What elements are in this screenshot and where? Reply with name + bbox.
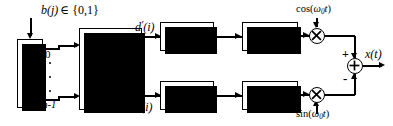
sp-output-index-top: 0 [45,48,51,60]
signal-space-mapping-block: Signal- raum Zuordnung [79,28,142,110]
mapper-label-line1: Signal- [94,50,127,63]
carrier-label-top-close: ) [328,3,332,14]
sp-output-index-bottom: m-1 [40,99,56,110]
output-signal-label: x(t) [365,47,382,62]
plus-icon [348,59,361,72]
multiply-icon [310,88,323,101]
impulse-bottom-line2: generator [166,96,208,108]
impulse-to-shaping-top-arrow [235,33,241,39]
output-signal-arg: (t) [370,47,381,61]
branch-top-arg: (i) [143,20,154,34]
mapper-label-line2: raum [99,63,123,76]
multiplier-bottom [309,87,325,103]
summer-output-arrow [379,62,385,68]
carrier-label-top: cos(ω0t) [296,3,331,16]
sp-label-p: P [26,91,33,106]
pulse-shaping-filter-block-top: gs(t) [242,22,298,51]
input-signal-alphabet: ∈ {0,1} [60,3,98,17]
ellipsis-dot [49,76,51,78]
shaping-bottom-label: gs(t) [259,88,281,103]
input-signal-symbol: b(j) [41,3,58,17]
sp-label-slash: / [28,66,32,81]
sp-output-ellipsis [48,62,52,92]
multiplier-top [309,28,325,44]
sp-label-s: S [26,41,33,56]
branch-label-bottom: d″(i) [131,99,153,115]
ellipsis-dot [49,90,51,92]
summer-minus-sign: - [343,71,347,87]
carrier-label-top-omega: ω [314,3,321,14]
shaping-top-label: gs(t) [259,29,281,44]
summer-plus-sign: + [342,47,349,62]
summing-junction [347,58,363,74]
impulse-generator-block-bottom: Impuls- generator [160,81,214,110]
carrier-label-bottom-close: ) [326,108,330,119]
serial-to-parallel-block: S / P [17,39,43,108]
branch-label-top: d′(i) [135,19,155,35]
multiply-icon [310,29,323,42]
carrier-label-bottom: sin(ω0t) [296,108,329,121]
impulse-generator-block-top: Impuls- generator [160,22,214,51]
input-signal-label: b(j)∈ {0,1} [41,3,99,18]
impulse-top-line1: Impuls- [170,24,204,36]
impulse-top-line2: generator [166,37,208,49]
branch-bottom-arg: (i) [141,100,152,114]
mapper-label-line3: Zuordnung [85,75,136,88]
carrier-label-bottom-fn: sin( [296,108,312,119]
ellipsis-dot [49,62,51,64]
impulse-bottom-line1: Impuls- [170,83,204,95]
sp-output-index-bottom-text: m-1 [40,99,56,110]
block-diagram-canvas: b(j)∈ {0,1} S / P 0 m-1 Signal- raum Zuo… [0,0,393,126]
pulse-shaping-filter-block-bottom: gs(t) [242,81,298,110]
impulse-to-shaping-bottom-arrow [235,92,241,98]
carrier-label-top-fn: cos( [296,3,314,14]
